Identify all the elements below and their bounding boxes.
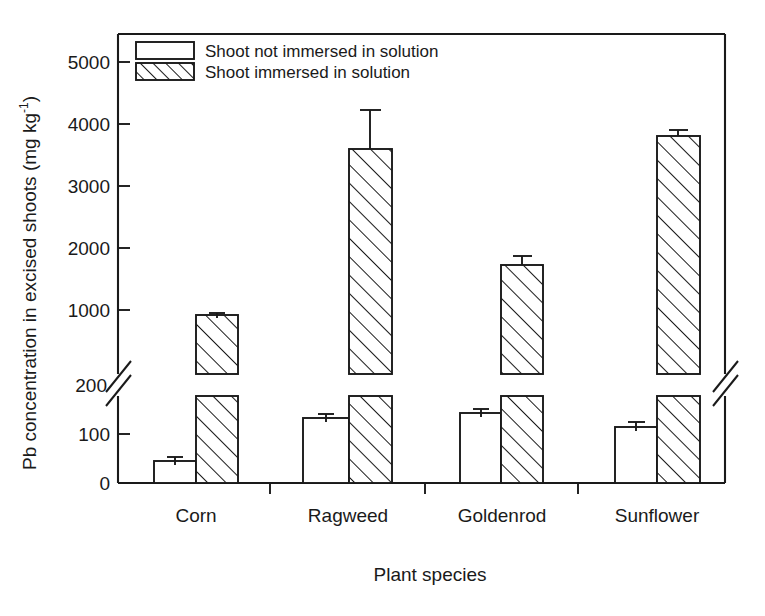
y-tick-label-0: 0: [99, 473, 110, 494]
bar-chart: 5000 4000 3000 2000 1000 200 100 0: [0, 0, 765, 616]
bar-goldenrod-not-immersed: [460, 413, 501, 483]
y-tick-label-1000: 1000: [68, 300, 110, 321]
y-tick-label-100: 100: [78, 424, 110, 445]
svg-text:Pb concentration in excised sh: Pb concentration in excised shoots (mg k…: [17, 96, 40, 470]
legend-label-not-immersed: Shoot not immersed in solution: [205, 42, 438, 61]
bar-sunflower-immersed-upper: [657, 136, 700, 374]
bar-goldenrod-immersed-lower: [501, 396, 543, 483]
y-tick-label-5000: 5000: [68, 52, 110, 73]
y-tick-label-4000: 4000: [68, 114, 110, 135]
x-axis-title: Plant species: [373, 564, 486, 585]
y-tick-label-200: 200: [75, 375, 107, 396]
x-tick-label-ragweed: Ragweed: [308, 505, 388, 526]
y-tick-label-2000: 2000: [68, 238, 110, 259]
x-tick-label-corn: Corn: [175, 505, 216, 526]
bar-ragweed-immersed-lower: [349, 396, 392, 483]
y-axis-title-end: ): [19, 96, 40, 102]
legend-label-immersed: Shoot immersed in solution: [205, 63, 410, 82]
figure-container: 5000 4000 3000 2000 1000 200 100 0: [0, 0, 765, 616]
bar-corn-immersed-lower: [196, 396, 238, 483]
bar-sunflower-immersed-lower: [657, 396, 700, 483]
x-tick-label-sunflower: Sunflower: [615, 505, 700, 526]
x-tick-label-goldenrod: Goldenrod: [458, 505, 547, 526]
legend-swatch-not-immersed: [136, 42, 194, 59]
y-axis-title-main: Pb concentration in excised shoots (mg k…: [19, 113, 40, 470]
y-axis-title: Pb concentration in excised shoots (mg k…: [17, 96, 40, 470]
bar-sunflower-not-immersed: [615, 427, 657, 483]
bar-ragweed-immersed-upper: [349, 149, 392, 374]
bar-goldenrod-immersed-upper: [501, 265, 543, 374]
bar-corn-immersed-upper: [196, 315, 238, 374]
legend-swatch-immersed: [136, 63, 194, 80]
y-tick-label-3000: 3000: [68, 176, 110, 197]
bar-ragweed-not-immersed: [303, 418, 349, 483]
y-axis-title-superscript: -1: [17, 102, 31, 113]
